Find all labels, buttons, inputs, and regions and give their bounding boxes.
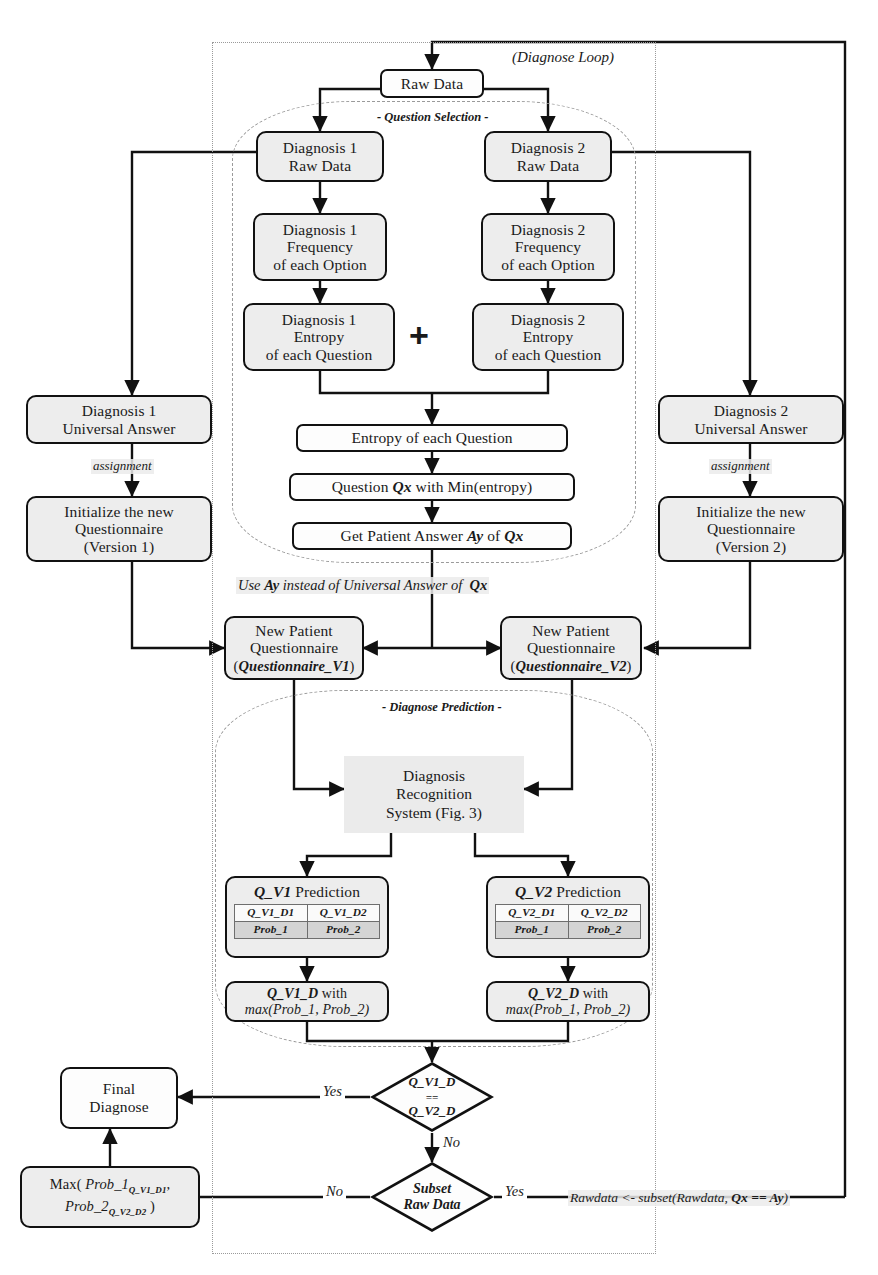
d2ent-l2: Entropy bbox=[523, 328, 574, 345]
qv2-prob1: Prob_1 bbox=[496, 921, 569, 938]
qv1-col2: Q_V1_D2 bbox=[307, 904, 380, 921]
max-term1-tail: , bbox=[167, 1176, 171, 1192]
drs-l1: Diagnosis bbox=[403, 767, 465, 784]
d1uni-l2: Universal Answer bbox=[62, 420, 175, 437]
npqv2-l1: New Patient bbox=[532, 622, 609, 639]
subset-l1: Subset bbox=[413, 1181, 451, 1196]
npqv1-l2: Questionnaire bbox=[250, 639, 338, 656]
node-diagnosis1-universal-answer[interactable]: Diagnosis 1 Universal Answer bbox=[26, 395, 212, 444]
eq-l1: Q_V1_D bbox=[409, 1074, 456, 1089]
node-new-patient-questionnaire-v2[interactable]: New Patient Questionnaire (Questionnaire… bbox=[500, 616, 642, 680]
d1uni-l1: Diagnosis 1 bbox=[82, 402, 157, 419]
node-raw-data-label: Raw Data bbox=[386, 75, 478, 93]
d1freq-l1: Diagnosis 1 bbox=[283, 221, 358, 238]
node-diagnosis2-frequency[interactable]: Diagnosis 2 Frequency of each Option bbox=[481, 213, 615, 281]
drs-l2: Recognition bbox=[396, 785, 472, 802]
node-raw-data[interactable]: Raw Data bbox=[380, 69, 484, 98]
max-suffix: ) bbox=[146, 1198, 155, 1214]
qv1-result-rest: with bbox=[318, 986, 347, 1001]
final-l2: Diagnose bbox=[89, 1098, 148, 1115]
d1raw-l2: Raw Data bbox=[289, 157, 351, 174]
node-diagnosis1-frequency[interactable]: Diagnosis 1 Frequency of each Option bbox=[253, 213, 387, 281]
final-l1: Final bbox=[103, 1080, 135, 1097]
node-get-patient-answer[interactable]: Get Patient Answer Ay of Qx bbox=[292, 522, 572, 550]
initv1-l2: Questionnaire bbox=[75, 520, 163, 537]
qv2-result-rest: with bbox=[579, 986, 608, 1001]
d1raw-l1: Diagnosis 1 bbox=[283, 139, 358, 156]
initv1-l1: Initialize the new bbox=[64, 503, 173, 520]
d1freq-l3: of each Option bbox=[273, 256, 367, 273]
node-qv2-prediction[interactable]: Q_V2 Prediction Q_V2_D1 Q_V2_D2 Prob_1 P… bbox=[486, 876, 650, 958]
annotation-use-ay: Use Ay instead of Universal Answer of Qx bbox=[236, 577, 489, 594]
d2freq-l2: Frequency bbox=[515, 238, 581, 255]
qv1-pred-title-bold: Q_V1 bbox=[254, 883, 291, 900]
node-qv1-result[interactable]: Q_V1_D with max(Prob_1, Prob_2) bbox=[225, 981, 389, 1022]
node-diagnosis1-entropy[interactable]: Diagnosis 1 Entropy of each Question bbox=[243, 303, 395, 371]
diagnose-prediction-title: - Diagnose Prediction - bbox=[378, 700, 506, 715]
edge-label-equality-yes: Yes bbox=[320, 1083, 345, 1100]
qv1-col1: Q_V1_D1 bbox=[235, 904, 308, 921]
d2ent-l1: Diagnosis 2 bbox=[511, 311, 586, 328]
edge-label-subset-no: No bbox=[323, 1183, 346, 1200]
qv2-pred-title-bold: Q_V2 bbox=[515, 883, 552, 900]
decision-subset-raw-data[interactable]: Subset Raw Data bbox=[370, 1161, 494, 1233]
qv2-result-bold: Q_V2_D bbox=[528, 986, 579, 1001]
edge-label-equality-no: No bbox=[440, 1134, 463, 1151]
node-entropy-each-question[interactable]: Entropy of each Question bbox=[296, 424, 568, 452]
max-term1-sub: Q_V1_D1 bbox=[129, 1185, 167, 1195]
node-new-patient-questionnaire-v1[interactable]: New Patient Questionnaire (Q_V1Questionn… bbox=[224, 616, 364, 680]
subset-expr-post: ) bbox=[784, 1190, 789, 1205]
qv2-pred-title-rest: Prediction bbox=[552, 883, 621, 900]
node-diagnosis2-universal-answer[interactable]: Diagnosis 2 Universal Answer bbox=[658, 395, 844, 444]
d2freq-l1: Diagnosis 2 bbox=[511, 221, 586, 238]
qv2-prediction-table: Q_V2_D1 Q_V2_D2 Prob_1 Prob_2 bbox=[495, 904, 641, 940]
question-selection-title: - Question Selection - bbox=[373, 110, 492, 125]
max-prefix: Max( bbox=[50, 1176, 86, 1192]
initv2-l1: Initialize the new bbox=[696, 503, 805, 520]
qv1-result-bold: Q_V1_D bbox=[267, 986, 318, 1001]
qv1-pred-title-rest: Prediction bbox=[291, 883, 360, 900]
qv2-col1: Q_V2_D1 bbox=[496, 904, 569, 921]
node-qv2-result[interactable]: Q_V2_D with max(Prob_1, Prob_2) bbox=[486, 981, 650, 1022]
d1ent-l1: Diagnosis 1 bbox=[282, 311, 357, 328]
qv1-result-l2: max(Prob_1, Prob_2) bbox=[245, 1002, 370, 1017]
annotation-assignment-right: assignment bbox=[709, 459, 772, 474]
subset-expr-pre: Rawdata <- subset(Rawdata, bbox=[570, 1190, 731, 1205]
subset-l2: Raw Data bbox=[403, 1197, 460, 1212]
drs-l3: System (Fig. 3) bbox=[386, 804, 482, 821]
subset-expr-bold: Qx == Ay bbox=[731, 1190, 783, 1205]
qv2-result-l2: max(Prob_1, Prob_2) bbox=[506, 1002, 631, 1017]
node-qv1-prediction[interactable]: Q_V1 Prediction Q_V1_D1 Q_V1_D2 Prob_1 P… bbox=[225, 876, 389, 958]
qv1-prob1: Prob_1 bbox=[235, 921, 308, 938]
diagnose-loop-title: (Diagnose Loop) bbox=[508, 49, 618, 66]
node-diagnosis2-raw-data[interactable]: Diagnosis 2 Raw Data bbox=[484, 131, 612, 182]
d2ent-l3: of each Question bbox=[495, 346, 602, 363]
node-initialize-questionnaire-v2[interactable]: Initialize the new Questionnaire (Versio… bbox=[658, 496, 844, 562]
node-final-diagnose[interactable]: Final Diagnose bbox=[60, 1067, 178, 1129]
initv2-l3: (Version 2) bbox=[716, 538, 786, 555]
node-diagnosis2-entropy[interactable]: Diagnosis 2 Entropy of each Question bbox=[472, 303, 624, 371]
d1freq-l2: Frequency bbox=[287, 238, 353, 255]
annotation-subset-expression: Rawdata <- subset(Rawdata, Qx == Ay) bbox=[568, 1190, 790, 1206]
node-question-min-entropy[interactable]: Question Qx with Min(entropy) bbox=[289, 473, 575, 501]
decision-qv1d-equals-qv2d[interactable]: Q_V1_D == Q_V2_D bbox=[370, 1061, 494, 1133]
max-term2-sub: Q_V2_D2 bbox=[109, 1207, 147, 1217]
npqv2-l2: Questionnaire bbox=[527, 639, 615, 656]
node-diagnosis1-raw-data[interactable]: Diagnosis 1 Raw Data bbox=[256, 131, 384, 182]
d2uni-l1: Diagnosis 2 bbox=[714, 402, 789, 419]
max-term1: Prob_1 bbox=[85, 1176, 129, 1192]
d1ent-l3: of each Question bbox=[266, 346, 373, 363]
node-max-prob[interactable]: Max( Prob_1Q_V1_D1, Prob_2Q_V2_D2 ) bbox=[20, 1166, 200, 1228]
d2raw-l2: Raw Data bbox=[517, 157, 579, 174]
d2uni-l2: Universal Answer bbox=[694, 420, 807, 437]
figure-canvas: (Diagnose Loop) - Question Selection - -… bbox=[0, 0, 878, 1275]
node-diagnosis-recognition-system[interactable]: Diagnosis Recognition System (Fig. 3) bbox=[344, 756, 524, 833]
max-term2: Prob_2 bbox=[65, 1198, 109, 1214]
d2freq-l3: of each Option bbox=[501, 256, 595, 273]
initv2-l2: Questionnaire bbox=[707, 520, 795, 537]
node-initialize-questionnaire-v1[interactable]: Initialize the new Questionnaire (Versio… bbox=[26, 496, 212, 562]
plus-sign: + bbox=[409, 318, 429, 352]
d2raw-l1: Diagnosis 2 bbox=[511, 139, 586, 156]
qv2-col2: Q_V2_D2 bbox=[568, 904, 641, 921]
eq-l3: Q_V2_D bbox=[409, 1103, 456, 1118]
